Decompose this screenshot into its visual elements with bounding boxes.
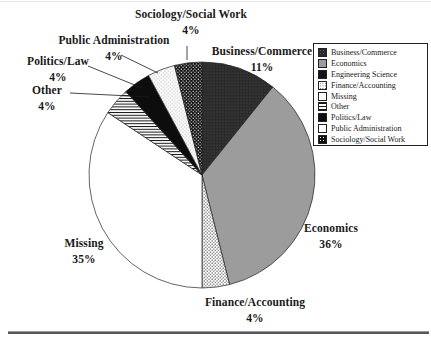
slice-label-missing: Missing 35%	[64, 236, 103, 267]
legend-item-business: Business/Commerce	[318, 47, 427, 58]
legend-label-politics: Politics/Law	[331, 113, 371, 122]
legend-swatch-business	[318, 48, 327, 57]
legend-swatch-economics	[318, 59, 327, 68]
slice-label-politics-law: Politics/Law 4%	[27, 54, 89, 85]
leader-line-politics-law	[88, 66, 142, 88]
slice-label-other-name: Other	[32, 83, 62, 99]
slice-label-public-administration-name: Public Administration	[58, 33, 169, 49]
slice-label-economics-name: Economics	[304, 221, 358, 237]
slice-label-finance-name: Finance/Accounting	[205, 295, 305, 311]
legend-label-finance: Finance/Accounting	[331, 81, 396, 90]
legend-swatch-other	[318, 102, 327, 111]
legend-label-missing: Missing	[331, 92, 357, 101]
legend-label-economics: Economics	[331, 59, 367, 68]
chart-legend: Business/CommerceEconomicsEngineering Sc…	[313, 43, 428, 146]
slice-label-finance-pct: 4%	[205, 311, 305, 327]
slice-label-other-pct: 4%	[32, 99, 62, 115]
slice-label-business: Business/Commerce 11%	[212, 44, 313, 75]
legend-label-pubadmin: Public Administration	[331, 124, 401, 133]
figure-pie-chart: Sociology/Social Work 4% Business/Commer…	[0, 0, 431, 337]
legend-item-finance: Finance/Accounting	[318, 80, 427, 91]
legend-label-other: Other	[331, 102, 349, 111]
legend-swatch-finance	[318, 81, 327, 90]
legend-swatch-missing	[318, 92, 327, 101]
slice-label-missing-name: Missing	[64, 236, 103, 252]
legend-label-business: Business/Commerce	[331, 48, 397, 57]
legend-item-other: Other	[318, 101, 427, 112]
legend-item-missing: Missing	[318, 91, 427, 102]
legend-label-engineering: Engineering Science	[331, 70, 397, 79]
legend-swatch-sociology	[318, 135, 327, 144]
slice-label-business-name: Business/Commerce	[212, 44, 313, 60]
slice-label-business-pct: 11%	[212, 60, 313, 76]
slice-label-sociology-name: Sociology/Social Work	[135, 7, 247, 23]
bottom-rule	[8, 331, 429, 334]
slice-label-politics-law-name: Politics/Law	[27, 54, 89, 70]
slice-label-other: Other 4%	[32, 83, 62, 114]
legend-item-pubadmin: Public Administration	[318, 123, 427, 134]
slice-label-economics-pct: 36%	[304, 237, 358, 253]
slice-label-finance: Finance/Accounting 4%	[205, 295, 305, 326]
slice-label-missing-pct: 35%	[64, 252, 103, 268]
legend-swatch-pubadmin	[318, 124, 327, 133]
legend-swatch-engineering	[318, 70, 327, 79]
legend-label-sociology: Sociology/Social Work	[331, 135, 405, 144]
legend-item-engineering: Engineering Science	[318, 69, 427, 80]
slice-label-economics: Economics 36%	[304, 221, 358, 252]
legend-item-politics: Politics/Law	[318, 112, 427, 123]
legend-swatch-politics	[318, 113, 327, 122]
legend-item-economics: Economics	[318, 58, 427, 69]
legend-item-sociology: Sociology/Social Work	[318, 134, 427, 145]
